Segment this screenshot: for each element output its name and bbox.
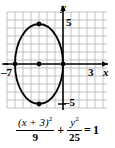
y-tick-label-neg5: –5 — [64, 97, 75, 108]
plus-operator: + — [56, 123, 65, 138]
point-top-vertex — [37, 22, 42, 27]
point-center — [37, 62, 42, 67]
x-tick-label-3: 3 — [88, 67, 94, 78]
y-axis-label: y — [61, 2, 66, 13]
equals-operator: = — [84, 123, 91, 138]
x-exponent: 2 — [49, 115, 53, 123]
x-binomial: (x + 3) — [18, 116, 49, 128]
point-left-vertex — [13, 62, 18, 67]
plot-svg — [0, 0, 115, 112]
equation-result: 1 — [93, 123, 99, 138]
x-axis-label: x — [103, 67, 109, 78]
point-bottom-vertex — [37, 102, 42, 107]
fraction-y-numerator: y2 — [68, 117, 80, 130]
y-exponent: 2 — [75, 115, 79, 123]
equation-row: (x + 3)2 9 + y2 25 = 1 — [16, 117, 99, 143]
x-tick-label-neg7: –7 — [1, 67, 12, 78]
ellipse-figure: y x 5 –5 –7 3 (x + 3)2 9 + y2 25 = 1 — [0, 0, 115, 148]
fraction-x-denominator: 9 — [30, 131, 40, 144]
point-right-vertex — [61, 62, 66, 67]
y-tick-label-5: 5 — [66, 17, 72, 28]
fraction-y-denominator: 25 — [67, 131, 82, 144]
coordinate-plot: y x 5 –5 –7 3 — [0, 0, 115, 112]
ellipse-equation: (x + 3)2 9 + y2 25 = 1 — [0, 112, 115, 148]
fraction-x-term: (x + 3)2 9 — [16, 117, 54, 143]
fraction-y-term: y2 25 — [67, 117, 82, 143]
fraction-x-numerator: (x + 3)2 — [16, 117, 54, 130]
